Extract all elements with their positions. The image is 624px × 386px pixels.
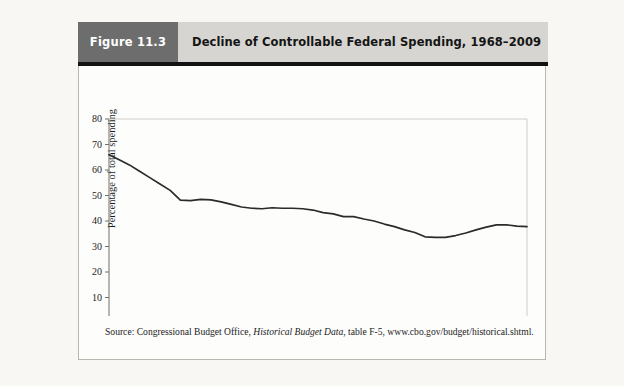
figure-box: Figure 11.3 Decline of Controllable Fede… <box>78 22 546 360</box>
y-tick-label: 40 <box>92 215 102 226</box>
source-italic-title: Historical Budget Data <box>253 326 343 337</box>
figure-header: Figure 11.3 Decline of Controllable Fede… <box>78 22 548 62</box>
figure-title: Decline of Controllable Federal Spending… <box>192 35 541 49</box>
line-chart: 0102030405060708019681973197819831988199… <box>79 66 547 316</box>
y-tick-label: 60 <box>92 164 102 175</box>
figure-number-block: Figure 11.3 <box>78 22 178 62</box>
figure-page: Figure 11.3 Decline of Controllable Fede… <box>0 0 624 386</box>
y-tick-label: 10 <box>92 292 102 303</box>
chart-area: Percentage of total spending 01020304050… <box>79 66 547 316</box>
source-note: Source: Congressional Budget Office, His… <box>105 326 535 339</box>
y-tick-label: 30 <box>92 241 102 252</box>
source-suffix: , table F-5, www.cbo.gov/budget/historic… <box>343 326 533 337</box>
y-tick-label: 20 <box>92 266 102 277</box>
figure-number-label: Figure 11.3 <box>90 35 166 49</box>
y-tick-label: 70 <box>92 139 102 150</box>
y-tick-label: 50 <box>92 190 102 201</box>
data-series-line <box>109 155 527 238</box>
source-prefix: Source: Congressional Budget Office, <box>105 326 253 337</box>
y-tick-label: 80 <box>92 113 102 124</box>
figure-title-block: Decline of Controllable Federal Spending… <box>178 22 548 62</box>
